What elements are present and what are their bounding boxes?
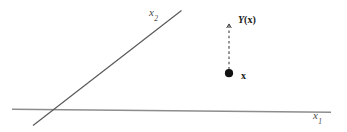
point-x-marker	[225, 69, 233, 77]
point-x-label: x	[241, 71, 246, 81]
image-point-label: Y(x)	[238, 15, 256, 25]
x2-axis-label-subscript: 2	[154, 14, 158, 23]
image-point-close-paren: )	[252, 14, 255, 25]
x1-axis-line	[12, 109, 331, 112]
x2-axis-label: x2	[149, 7, 158, 21]
x2-axis-line	[33, 11, 182, 126]
x1-axis-label: x1	[313, 110, 322, 124]
diagram-svg	[0, 0, 347, 132]
figure-canvas: x2 x1 Y(x) x	[0, 0, 347, 132]
x1-axis-label-subscript: 1	[318, 117, 322, 126]
